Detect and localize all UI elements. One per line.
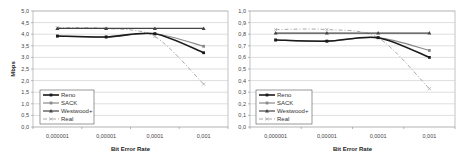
legend-label: SACK bbox=[61, 100, 77, 106]
reno-marker-icon bbox=[325, 40, 328, 43]
legend-label: SACK bbox=[277, 100, 293, 106]
x-tick-label: 0,0001 bbox=[146, 133, 163, 139]
y-tick-label: 5,0 bbox=[21, 8, 29, 14]
reno-marker-icon bbox=[50, 94, 53, 97]
legend-label: Real bbox=[61, 116, 73, 122]
x-tick-label: 0,0001 bbox=[370, 133, 387, 139]
reno-marker-icon bbox=[153, 32, 156, 35]
y-tick-label: 0,2 bbox=[238, 101, 246, 107]
y-tick-label: 2,0 bbox=[21, 78, 29, 84]
y-axis-title: Mbps bbox=[10, 61, 16, 77]
y-tick-label: 0,0 bbox=[238, 124, 246, 130]
reno-marker-icon bbox=[377, 36, 380, 39]
y-tick-label: 0,7 bbox=[238, 43, 246, 49]
sack-marker-icon bbox=[50, 102, 53, 105]
x-tick-label: 0,001 bbox=[197, 133, 211, 139]
y-tick-label: 0,5 bbox=[21, 112, 29, 118]
legend: RenoSACKWestwood+Real bbox=[40, 90, 94, 124]
legend-label: Real bbox=[277, 116, 289, 122]
y-tick-label: 0,4 bbox=[238, 78, 246, 84]
legend-label: Westwood+ bbox=[61, 108, 93, 114]
sack-marker-icon bbox=[202, 45, 205, 48]
x-tick-label: 0,00001 bbox=[96, 133, 116, 139]
reno-marker-icon bbox=[266, 94, 269, 97]
x-axis-title: Bit Error Rate bbox=[333, 146, 373, 152]
reno-marker-icon bbox=[428, 56, 431, 59]
reno-marker-icon bbox=[202, 51, 205, 54]
y-tick-label: 0,3 bbox=[238, 89, 246, 95]
y-tick-label: 2,5 bbox=[21, 66, 29, 72]
x-tick-label: 0,000001 bbox=[264, 133, 287, 139]
legend-label: Reno bbox=[61, 92, 76, 98]
legend-label: Reno bbox=[277, 92, 292, 98]
reno-marker-icon bbox=[105, 36, 108, 39]
y-tick-label: 0,5 bbox=[238, 66, 246, 72]
y-tick-label: 4,5 bbox=[21, 20, 29, 26]
x-tick-label: 0,000001 bbox=[46, 133, 69, 139]
y-tick-label: 3,0 bbox=[21, 54, 29, 60]
legend-label: Westwood+ bbox=[277, 108, 309, 114]
chart-left-mbps: 0,00,51,01,52,02,53,03,54,04,55,00,00000… bbox=[0, 0, 235, 156]
y-tick-label: 1,0 bbox=[238, 8, 246, 14]
x-tick-label: 0,00001 bbox=[317, 133, 337, 139]
sack-marker-icon bbox=[428, 49, 431, 52]
sack-marker-icon bbox=[266, 102, 269, 105]
x-tick-label: 0,001 bbox=[422, 133, 436, 139]
y-tick-label: 0,1 bbox=[238, 112, 246, 118]
y-tick-label: 4,0 bbox=[21, 31, 29, 37]
y-tick-label: 0,8 bbox=[238, 31, 246, 37]
y-tick-label: 1,0 bbox=[21, 101, 29, 107]
chart-right-fraction: 0,00,10,20,30,40,50,60,70,80,91,00,00000… bbox=[235, 0, 470, 156]
y-tick-label: 1,5 bbox=[21, 89, 29, 95]
figure: 0,00,51,01,52,02,53,03,54,04,55,00,00000… bbox=[0, 0, 470, 156]
reno-marker-icon bbox=[56, 35, 59, 38]
y-tick-label: 3,5 bbox=[21, 43, 29, 49]
reno-marker-icon bbox=[274, 39, 277, 42]
x-axis-title: Bit Error Rate bbox=[111, 146, 151, 152]
legend: RenoSACKWestwood+Real bbox=[256, 90, 312, 124]
y-tick-label: 0,0 bbox=[21, 124, 29, 130]
y-tick-label: 0,6 bbox=[238, 54, 246, 60]
y-tick-label: 0,9 bbox=[238, 20, 246, 26]
